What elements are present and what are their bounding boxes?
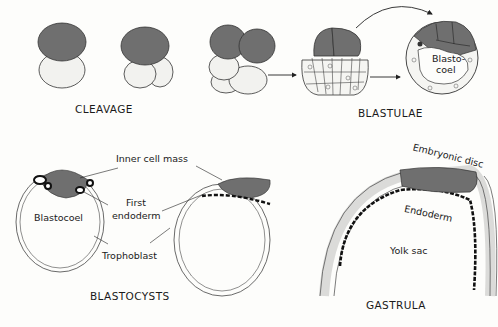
caption-blastocysts: BLASTOCYSTS	[90, 290, 170, 302]
diagram-artwork	[0, 0, 498, 327]
gastrula	[320, 167, 497, 296]
label-first-endoderm-1: First	[126, 197, 146, 208]
label-inner-cell-mass: Inner cell mass	[116, 153, 188, 164]
embryo-development-diagram: CLEAVAGE BLASTULAE BLASTOCYSTS GASTRULA …	[0, 0, 498, 327]
morula-embryo	[209, 25, 275, 94]
caption-cleavage: CLEAVAGE	[75, 103, 133, 115]
label-blastocoel: Blastocoel	[34, 212, 83, 223]
two-cell-embryo	[38, 23, 86, 88]
label-first-endoderm-2: endoderm	[112, 210, 161, 221]
early-blastula	[302, 28, 368, 95]
caption-blastulae: BLASTULAE	[358, 107, 423, 119]
three-cell-embryo	[121, 27, 173, 88]
label-blastocoel-blastula-2: coel	[436, 64, 456, 75]
caption-gastrula: GASTRULA	[366, 299, 426, 311]
label-blastocoel-blastula-1: Blasto-	[432, 53, 465, 64]
label-trophoblast: Trophoblast	[102, 250, 157, 261]
label-yolk-sac: Yolk sac	[390, 245, 428, 256]
late-blastocyst	[174, 178, 270, 296]
